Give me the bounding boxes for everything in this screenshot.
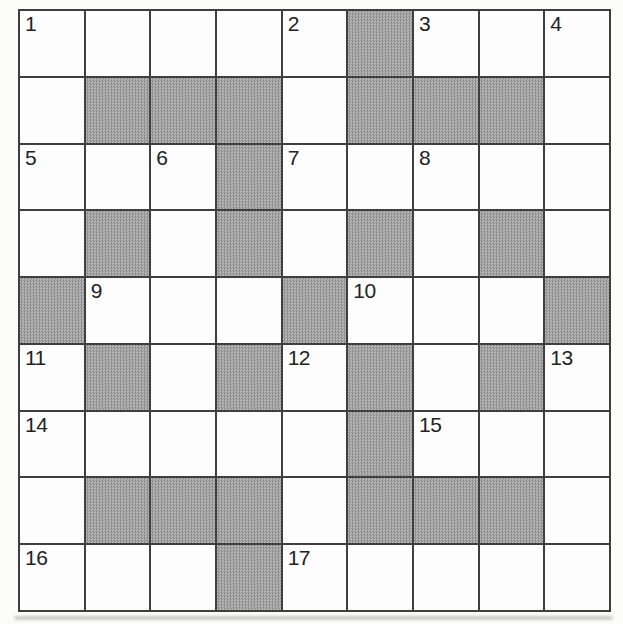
white-cell[interactable]: 11: [20, 345, 84, 410]
block-cell: [480, 345, 544, 410]
white-cell[interactable]: [545, 478, 609, 543]
white-cell[interactable]: [20, 211, 84, 276]
block-cell: [348, 412, 412, 477]
white-cell[interactable]: 6: [151, 145, 215, 210]
clue-number: 8: [419, 146, 430, 170]
white-cell[interactable]: [86, 545, 150, 610]
block-cell: [20, 278, 84, 343]
clue-number: 14: [25, 413, 47, 437]
block-cell: [480, 78, 544, 143]
block-cell: [348, 211, 412, 276]
white-cell[interactable]: 1: [20, 11, 84, 76]
block-cell: [414, 78, 478, 143]
white-cell[interactable]: [283, 211, 347, 276]
white-cell[interactable]: [283, 78, 347, 143]
block-cell: [151, 478, 215, 543]
white-cell[interactable]: 9: [86, 278, 150, 343]
white-cell[interactable]: [217, 11, 281, 76]
white-cell[interactable]: [151, 545, 215, 610]
block-cell: [545, 278, 609, 343]
block-cell: [217, 211, 281, 276]
clue-number: 6: [156, 146, 167, 170]
clue-number: 9: [91, 279, 102, 303]
white-cell[interactable]: [545, 78, 609, 143]
white-cell[interactable]: [86, 11, 150, 76]
clue-number: 2: [288, 12, 299, 36]
block-cell: [86, 211, 150, 276]
block-cell: [283, 278, 347, 343]
white-cell[interactable]: 12: [283, 345, 347, 410]
clue-number: 7: [288, 146, 299, 170]
block-cell: [348, 345, 412, 410]
white-cell[interactable]: 15: [414, 412, 478, 477]
white-cell[interactable]: [480, 412, 544, 477]
white-cell[interactable]: [151, 11, 215, 76]
white-cell[interactable]: 17: [283, 545, 347, 610]
block-cell: [348, 11, 412, 76]
white-cell[interactable]: [20, 78, 84, 143]
white-cell[interactable]: [151, 345, 215, 410]
clue-number: 3: [419, 12, 430, 36]
clue-number: 4: [550, 12, 561, 36]
white-cell[interactable]: 5: [20, 145, 84, 210]
scan-shadow: [14, 616, 613, 620]
block-cell: [480, 478, 544, 543]
clue-number: 13: [550, 346, 572, 370]
clue-number: 16: [25, 546, 47, 570]
white-cell[interactable]: [480, 145, 544, 210]
clue-number: 10: [353, 279, 375, 303]
block-cell: [217, 78, 281, 143]
white-cell[interactable]: 4: [545, 11, 609, 76]
clue-number: 15: [419, 413, 441, 437]
white-cell[interactable]: [545, 412, 609, 477]
white-cell[interactable]: [20, 478, 84, 543]
white-cell[interactable]: [86, 145, 150, 210]
white-cell[interactable]: [348, 545, 412, 610]
white-cell[interactable]: 8: [414, 145, 478, 210]
block-cell: [217, 145, 281, 210]
block-cell: [86, 478, 150, 543]
block-cell: [217, 478, 281, 543]
clue-number: 5: [25, 146, 36, 170]
white-cell[interactable]: 14: [20, 412, 84, 477]
clue-number: 12: [288, 346, 310, 370]
white-cell[interactable]: [217, 412, 281, 477]
block-cell: [348, 78, 412, 143]
block-cell: [414, 478, 478, 543]
white-cell[interactable]: [86, 412, 150, 477]
white-cell[interactable]: [545, 211, 609, 276]
clue-number: 11: [25, 346, 46, 370]
white-cell[interactable]: 10: [348, 278, 412, 343]
white-cell[interactable]: 2: [283, 11, 347, 76]
white-cell[interactable]: 16: [20, 545, 84, 610]
block-cell: [86, 345, 150, 410]
white-cell[interactable]: [545, 145, 609, 210]
white-cell[interactable]: [151, 278, 215, 343]
white-cell[interactable]: [480, 11, 544, 76]
crossword-grid: 1234567891011121314151617: [18, 9, 611, 612]
white-cell[interactable]: [217, 278, 281, 343]
clue-number: 1: [25, 12, 36, 36]
white-cell[interactable]: [151, 211, 215, 276]
white-cell[interactable]: [414, 211, 478, 276]
block-cell: [86, 78, 150, 143]
block-cell: [217, 345, 281, 410]
block-cell: [151, 78, 215, 143]
white-cell[interactable]: [283, 478, 347, 543]
white-cell[interactable]: [414, 278, 478, 343]
block-cell: [480, 211, 544, 276]
block-cell: [217, 545, 281, 610]
white-cell[interactable]: [414, 545, 478, 610]
white-cell[interactable]: 3: [414, 11, 478, 76]
white-cell[interactable]: [151, 412, 215, 477]
clue-number: 17: [288, 546, 310, 570]
white-cell[interactable]: [348, 145, 412, 210]
white-cell[interactable]: 13: [545, 345, 609, 410]
white-cell[interactable]: [414, 345, 478, 410]
block-cell: [348, 478, 412, 543]
white-cell[interactable]: [545, 545, 609, 610]
white-cell[interactable]: [480, 278, 544, 343]
white-cell[interactable]: 7: [283, 145, 347, 210]
white-cell[interactable]: [283, 412, 347, 477]
white-cell[interactable]: [480, 545, 544, 610]
